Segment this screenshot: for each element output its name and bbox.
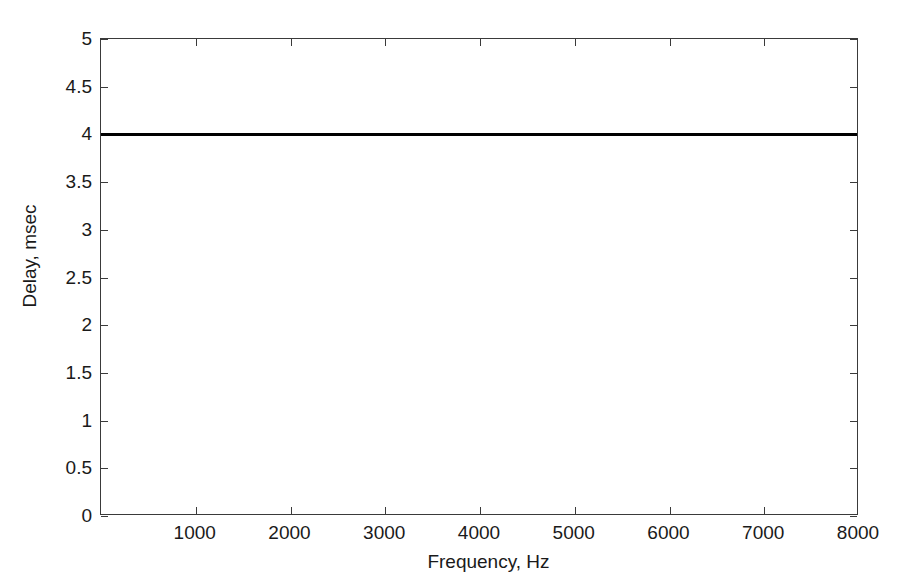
y-tick-label: 5 <box>6 29 92 48</box>
y-tick-label: 1 <box>6 410 92 429</box>
x-tick-label: 3000 <box>363 523 405 542</box>
y-tick-label: 1.5 <box>6 362 92 381</box>
x-tick-label: 6000 <box>647 523 689 542</box>
y-axis-title: Delay, msec <box>19 166 41 346</box>
x-axis-title-text: Frequency, Hz <box>427 551 549 572</box>
x-axis-title: Frequency, Hz <box>0 551 919 573</box>
y-tick-mark <box>101 516 108 517</box>
x-tick-label: 5000 <box>553 523 595 542</box>
chart-figure: 00.511.522.533.544.55 100020003000400050… <box>0 0 919 585</box>
x-tick-label: 8000 <box>837 523 879 542</box>
x-tick-label: 2000 <box>268 523 310 542</box>
series-0 <box>101 39 857 514</box>
y-tick-label: 4 <box>6 124 92 143</box>
x-tick-label: 1000 <box>174 523 216 542</box>
x-tick-label: 4000 <box>458 523 500 542</box>
y-tick-label: 0 <box>6 506 92 525</box>
y-tick-label: 4.5 <box>6 76 92 95</box>
plot-area <box>100 38 858 515</box>
data-series-layer <box>101 39 857 514</box>
y-tick-label: 0.5 <box>6 458 92 477</box>
x-tick-label: 7000 <box>742 523 784 542</box>
y-tick-mark <box>850 516 857 517</box>
